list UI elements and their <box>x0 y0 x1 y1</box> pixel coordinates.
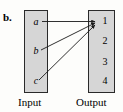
mapping-diagram-figure: b. a b c 1 2 3 4 Input Output <box>0 0 123 112</box>
output-caption: Output <box>76 97 107 108</box>
arrow-b-to-1 <box>41 23 95 50</box>
input-caption: Input <box>18 97 41 108</box>
arrow-c-to-1 <box>39 25 95 80</box>
